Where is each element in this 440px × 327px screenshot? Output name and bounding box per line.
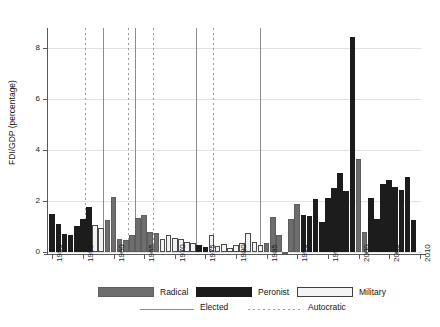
x-tick-label: 1955 [87,244,95,262]
bar [252,242,258,252]
x-tick-label: 1950 [56,244,64,262]
x-tick-label: 2000 [363,244,371,262]
reference-line-autocratic [213,28,214,252]
bar [288,219,294,252]
bar [399,190,405,252]
bar [374,219,380,252]
x-tick-mark [205,255,206,259]
bar [80,219,86,252]
reference-line-autocratic [153,28,154,252]
bar [166,235,172,252]
bar [350,37,356,252]
bar [380,184,386,252]
legend-line-sample-autocratic [248,309,302,310]
x-tick-mark [144,255,145,259]
x-tick-label: 1965 [148,244,156,262]
bar [135,218,141,252]
x-tick-mark [420,255,421,259]
bar [105,220,111,252]
y-axis-title: FDI/GDP (percentage) [8,23,17,223]
reference-line-elected [103,28,104,252]
fdi-gdp-bar-chart: FDI/GDP (percentage) 02468 1950195519601… [0,0,440,327]
bar [343,191,349,252]
bar [405,177,411,252]
y-tick-label: 0 [24,248,40,256]
x-tick-label: 1980 [240,244,248,262]
bar [221,244,227,252]
x-tick-label: 1985 [271,244,279,262]
bar [319,222,325,252]
x-tick-mark [328,255,329,259]
bar [98,228,104,252]
bar [190,243,196,252]
bar [160,239,166,252]
bar [313,199,319,252]
bar [356,159,362,252]
x-tick-mark [175,255,176,259]
bar [233,245,239,252]
bar [337,173,343,252]
y-tick-label: 4 [24,146,40,154]
x-tick-mark [389,255,390,259]
y-tick-label: 6 [24,95,40,103]
legend-row-parties: RadicalPeronistMilitary [0,286,440,299]
x-tick-label: 1975 [209,244,217,262]
legend-label-peronist: Peronist [258,288,289,297]
y-tick-label: 2 [24,197,40,205]
y-axis-line [47,28,48,254]
bar [325,198,331,252]
reference-line-elected [260,28,261,252]
bar [111,197,117,252]
legend-label-radical: Radical [160,288,188,297]
bar [227,248,233,252]
x-tick-mark [359,255,360,259]
bar [392,187,398,252]
x-tick-label: 1995 [332,244,340,262]
legend-label-elected: Elected [200,303,228,312]
legend-label-autocratic: Autocratic [308,303,346,312]
legend-swatch-peronist [196,287,252,297]
bar [172,238,178,252]
x-tick-mark [297,255,298,259]
reference-line-autocratic [128,28,129,252]
bar [264,243,270,252]
bar [68,235,74,252]
bar [196,245,202,252]
legend-label-military: Military [359,288,386,297]
legend-swatch-radical [98,287,154,297]
x-tick-mark [267,255,268,259]
x-tick-mark [52,255,53,259]
x-tick-label: 1990 [301,244,309,262]
x-tick-label: 1960 [118,244,126,262]
x-tick-mark [236,255,237,259]
bar [386,180,392,252]
bar [129,235,135,252]
bar [411,220,417,252]
x-tick-mark [114,255,115,259]
bar [331,188,337,252]
legend-line-sample-elected [140,309,194,310]
x-tick-label: 2010 [424,244,432,262]
legend-swatch-military [297,287,353,297]
x-tick-mark [83,255,84,259]
x-tick-label: 2005 [393,244,401,262]
y-tick-label: 8 [24,44,40,52]
reference-line-elected [196,28,197,252]
bar [258,245,264,252]
plot-area [48,28,421,252]
bar [74,226,80,252]
x-tick-label: 1970 [179,244,187,262]
chart-legend: RadicalPeronistMilitary ElectedAutocrati… [0,286,440,324]
legend-row-lines: ElectedAutocratic [0,303,440,315]
